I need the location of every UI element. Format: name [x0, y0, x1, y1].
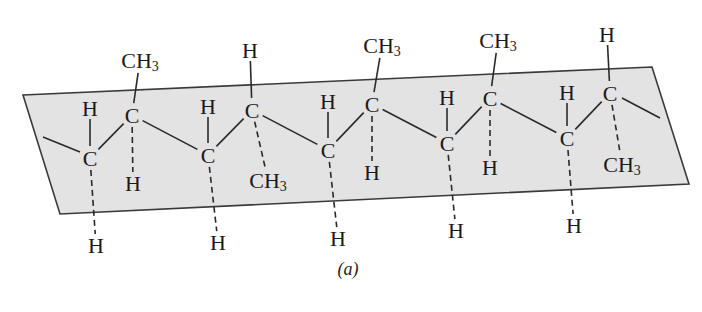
carbon-atom: C: [483, 86, 498, 111]
hydrogen-atom: H: [566, 213, 582, 238]
hydrogen-atom: H: [448, 218, 464, 243]
carbon-atom: C: [245, 98, 260, 123]
hydrogen-atom: H: [200, 94, 216, 119]
polypropylene-chain-diagram: HHCCH3HCHHCHCH3CHHCCH3HCHHCCH3HCHHCHCH3C…: [0, 0, 702, 312]
hydrogen-atom: H: [599, 22, 615, 47]
methyl-group: CH3: [479, 28, 517, 54]
carbon-atom: C: [125, 103, 140, 128]
hydrogen-atom: H: [364, 160, 380, 185]
carbon-atom: C: [321, 138, 336, 163]
carbon-atom: C: [560, 126, 575, 151]
hydrogen-atom: H: [88, 233, 104, 258]
carbon-atom: C: [440, 131, 455, 156]
molecular-plane: [23, 67, 689, 214]
figure-caption: (a): [338, 259, 359, 280]
hydrogen-atom: H: [210, 230, 226, 255]
polymer-figure: HHCCH3HCHHCHCH3CHHCCH3HCHHCCH3HCHHCHCH3C…: [0, 0, 702, 312]
hydrogen-atom: H: [439, 85, 455, 110]
hydrogen-atom: H: [330, 226, 346, 251]
hydrogen-atom: H: [320, 89, 336, 114]
carbon-atom: C: [83, 146, 98, 171]
hydrogen-atom: H: [82, 96, 98, 121]
methyl-group: CH3: [363, 33, 401, 59]
carbon-atom: C: [603, 81, 618, 106]
methyl-group: CH3: [121, 48, 159, 74]
carbon-atom: C: [365, 92, 380, 117]
hydrogen-atom: H: [125, 171, 141, 196]
carbon-atom: C: [201, 143, 216, 168]
hydrogen-atom: H: [242, 38, 258, 63]
hydrogen-atom: H: [482, 155, 498, 180]
hydrogen-atom: H: [559, 80, 575, 105]
